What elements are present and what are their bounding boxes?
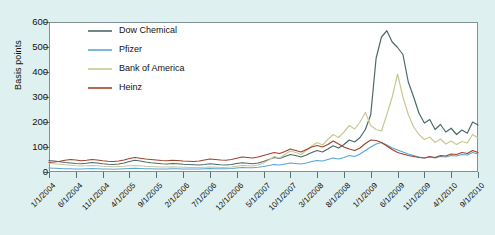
y-tick-label: 300 — [14, 92, 48, 102]
y-tick-label: 500 — [14, 42, 48, 52]
y-tick-label: 200 — [14, 117, 48, 127]
legend-label: Pfizer — [119, 44, 142, 54]
cds-spread-line-chart: Basis points 0100200300400500600 1/1/200… — [0, 0, 495, 235]
y-tick-label: 600 — [14, 17, 48, 27]
y-tick-label: 0 — [14, 167, 48, 177]
y-tick-label: 100 — [14, 142, 48, 152]
legend-label: Dow Chemical — [119, 25, 177, 35]
legend-label: Heinz — [119, 82, 142, 92]
legend-label: Bank of America — [119, 63, 185, 73]
y-tick-label: 400 — [14, 67, 48, 77]
